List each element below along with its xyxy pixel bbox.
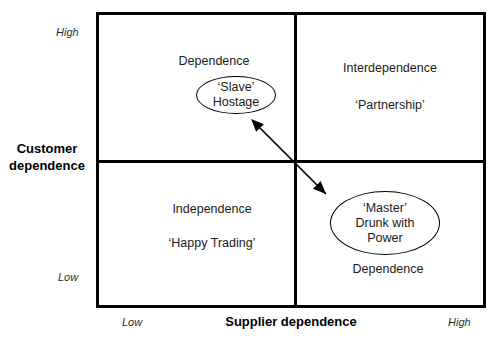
bubble-master-line2: Drunk with [355,216,414,231]
quadrant-bottom-left-title: Independence [132,202,292,217]
horizontal-divider [99,160,483,163]
bubble-master-line3: Power [367,231,402,246]
quadrant-top-right-subtitle: ‘Partnership’ [310,98,470,113]
bubble-slave-hostage: ‘Slave’ Hostage [196,76,276,114]
bubble-slave-line1: ‘Slave’ [218,80,255,95]
x-axis-tick-high: High [448,316,471,328]
bubble-slave-line2: Hostage [213,95,260,110]
dependence-matrix-diagram: Customer dependence High Low Dependence … [0,0,496,338]
x-axis-tick-low: Low [122,316,142,328]
y-axis-tick-high: High [56,26,79,38]
y-axis-title-line2: dependence [4,157,90,174]
quadrant-top-left-title: Dependence [134,54,294,69]
quadrant-top-right-title: Interdependence [310,61,470,76]
y-axis-title: Customer dependence [4,140,90,174]
bubble-master-line1: ‘Master’ [363,201,407,216]
bubble-master-drunk-with-power: ‘Master’ Drunk with Power [330,191,440,255]
x-axis-title: Supplier dependence [196,314,386,329]
quadrant-bottom-left-subtitle: ‘Happy Trading’ [132,236,292,251]
y-axis-tick-low: Low [58,271,78,283]
y-axis-title-line1: Customer [4,140,90,157]
quadrant-bottom-right-subtitle: Dependence [308,262,468,277]
